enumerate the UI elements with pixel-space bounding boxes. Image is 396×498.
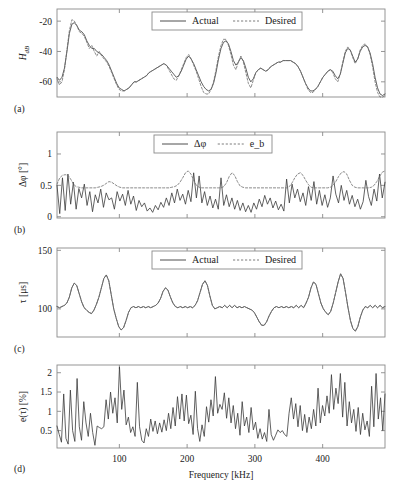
panel-c: 100150τ [μs]ActualDesired(c) [14, 246, 385, 355]
series-line-Desired [57, 274, 385, 331]
x-tick-label: 100 [112, 454, 127, 464]
y-tick-label: 100 [38, 304, 53, 314]
y-tick-label: 0 [47, 212, 52, 222]
panel-label: (c) [14, 344, 25, 355]
legend-label-desired: Desired [265, 15, 296, 26]
legend-label-actual: Actual [192, 254, 219, 265]
legend-label-desired: e_b [250, 138, 264, 149]
series-line-Actual [57, 274, 385, 331]
legend-label-actual: Actual [192, 15, 219, 26]
y-tick-label: 0.5 [40, 181, 52, 191]
y-tick-label: -60 [39, 77, 52, 87]
y-axis-label: Δφ [°] [18, 163, 28, 187]
series-line-Actual [57, 23, 385, 96]
x-tick-label: 300 [248, 454, 263, 464]
y-tick-label: 1.5 [40, 387, 52, 397]
y-tick-label: -40 [39, 47, 52, 57]
y-tick-label: 0.5 [40, 426, 52, 436]
y-axis-label: τ [μs] [18, 282, 28, 303]
y-tick-label: 150 [38, 246, 53, 256]
y-tick-label: 2 [47, 368, 52, 378]
y-axis-label: e(τ) [%] [18, 391, 29, 422]
series-line-e [57, 367, 385, 445]
panel-label: (a) [14, 104, 25, 115]
panel-label: (d) [14, 464, 25, 475]
four-panel-frequency-response-figure: -20-40-60HdBActualDesired(a)00.51Δφ [°]Δ… [0, 0, 396, 498]
panel-a: -20-40-60HdBActualDesired(a) [14, 9, 385, 115]
y-tick-label: 1 [47, 407, 52, 417]
panel-d: 0.511.52100200300400e(τ) [%](d) [14, 365, 385, 475]
y-tick-label: 1 [47, 149, 52, 159]
y-tick-label: -20 [39, 17, 52, 27]
panel-label: (b) [14, 225, 25, 236]
x-tick-label: 200 [180, 454, 195, 464]
x-axis-label: Frequency [kHz] [189, 470, 254, 480]
x-tick-label: 400 [316, 454, 331, 464]
figure-container: -20-40-60HdBActualDesired(a)00.51Δφ [°]Δ… [0, 0, 396, 498]
series-line- [57, 173, 385, 214]
y-axis-label: HdB [18, 45, 31, 61]
series-line-Desired [57, 20, 385, 97]
panel-b: 00.51Δφ [°]Δφe_b(b) [14, 132, 385, 236]
legend-label-desired: Desired [265, 254, 296, 265]
legend-label-actual: Δφ [194, 138, 206, 149]
